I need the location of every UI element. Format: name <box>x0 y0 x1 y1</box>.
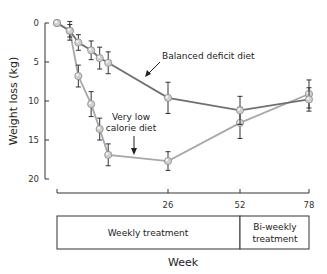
y-axis-title: Weight loss (kg) <box>7 57 20 146</box>
data-point <box>53 19 60 26</box>
data-point-highlight <box>238 108 241 111</box>
x-tick-label: 26 <box>163 200 174 210</box>
data-point <box>75 39 82 46</box>
biweekly-treatment-label-line1: Bi-weekly <box>253 222 297 232</box>
x-axis: 265278 <box>57 189 314 210</box>
series-very-low-calorie-diet <box>53 19 312 170</box>
x-tick-label: 52 <box>235 200 246 210</box>
data-point-highlight <box>106 153 109 156</box>
data-point-highlight <box>55 21 58 24</box>
data-point <box>96 125 103 132</box>
data-point-highlight <box>166 159 169 162</box>
data-point <box>88 47 95 54</box>
annotation-vlcd-arrowhead <box>131 148 137 155</box>
annotation-balanced-arrow <box>148 62 160 74</box>
annotation-vlcd-line1: Very low <box>112 112 150 122</box>
annotation-vlcd-line2: calorie diet <box>106 123 157 133</box>
data-point-highlight <box>68 29 71 32</box>
data-point-highlight <box>76 74 79 77</box>
x-axis-title: Week <box>168 256 199 269</box>
data-point-highlight <box>166 96 169 99</box>
annotation-balanced-arrowhead <box>145 70 151 77</box>
y-tick-label: 20 <box>28 174 39 184</box>
weight-loss-chart: 05101520 Weight loss (kg) 265278 Weekly … <box>0 0 327 274</box>
data-point <box>96 55 103 62</box>
data-point-highlight <box>307 97 310 100</box>
biweekly-treatment-box <box>240 216 309 249</box>
data-point-highlight <box>97 127 100 130</box>
data-point <box>88 101 95 108</box>
annotations: Balanced deficit diet Very low calorie d… <box>106 51 255 155</box>
x-tick-label: 78 <box>304 200 315 210</box>
series-line <box>57 23 309 161</box>
data-point <box>75 72 82 79</box>
weekly-treatment-label: Weekly treatment <box>108 228 189 238</box>
data-point <box>236 107 243 114</box>
y-tick-label: 10 <box>28 96 39 106</box>
data-point <box>164 157 171 164</box>
data-point <box>305 96 312 103</box>
y-tick-label: 0 <box>34 18 39 28</box>
y-axis: 05101520 Weight loss (kg) <box>7 18 49 184</box>
data-point-highlight <box>97 56 100 59</box>
data-point-highlight <box>89 102 92 105</box>
data-point <box>105 59 112 66</box>
series-line <box>57 23 309 110</box>
data-point-highlight <box>76 40 79 43</box>
data-point-highlight <box>89 48 92 51</box>
data-point-highlight <box>106 60 109 63</box>
treatment-phases: Weekly treatment Bi-weekly treatment <box>57 216 309 249</box>
data-point <box>164 94 171 101</box>
data-point <box>66 27 73 34</box>
y-tick-label: 15 <box>28 135 39 145</box>
y-tick-label: 5 <box>34 57 39 67</box>
annotation-balanced: Balanced deficit diet <box>162 51 255 61</box>
biweekly-treatment-label-line2: treatment <box>252 234 298 244</box>
data-point <box>105 151 112 158</box>
